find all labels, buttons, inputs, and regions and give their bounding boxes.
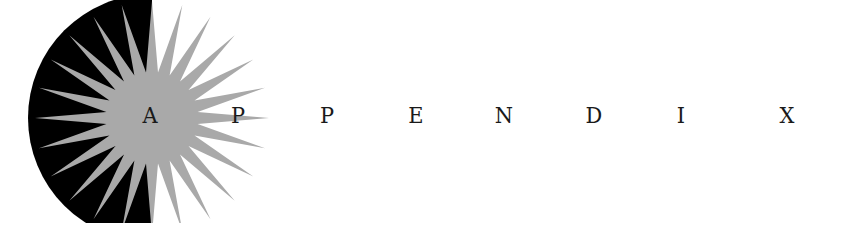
heading-letter: E bbox=[408, 103, 423, 129]
heading-letter: N bbox=[495, 103, 513, 129]
heading-letter: D bbox=[586, 103, 603, 129]
heading-letter: P bbox=[320, 103, 334, 129]
heading-letter: P bbox=[231, 103, 245, 129]
heading-letter: A bbox=[142, 103, 157, 129]
heading-letter: X bbox=[780, 103, 795, 129]
heading-letter: I bbox=[677, 103, 685, 129]
